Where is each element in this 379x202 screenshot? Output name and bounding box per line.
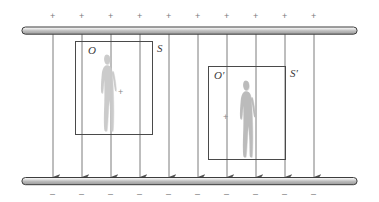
positive-charge-sign: + [253, 12, 258, 21]
observer-label-O-prime: O′ [214, 69, 224, 81]
physics-figure-capacitor-frames: O S + O′ S′ + +–+–+–+–+–+–+–+–+–+– [0, 0, 379, 202]
positive-charge-sign: + [50, 12, 55, 21]
negative-charge-sign: – [166, 190, 171, 199]
observer-silhouette-O-soft [102, 55, 117, 132]
positive-charge-sign: + [224, 12, 229, 21]
negative-charge-sign: – [195, 190, 200, 199]
frame-label-S: S [157, 42, 163, 54]
positive-charge-sign: + [195, 12, 200, 21]
negative-charge-sign: – [253, 190, 258, 199]
observer-label-O: O [88, 44, 96, 56]
negative-charge-sign: – [224, 190, 229, 199]
reference-frames [76, 42, 286, 160]
positive-charge-sign: + [282, 12, 287, 21]
positive-charge-sign: + [311, 12, 316, 21]
positive-charge-sign: + [108, 12, 113, 21]
negative-charge-sign: – [311, 190, 316, 199]
origin-marker-S: + [118, 88, 123, 97]
negative-charge-sign: – [137, 190, 142, 199]
negative-charge-sign: – [108, 190, 113, 199]
negative-charge-sign: – [50, 190, 55, 199]
negative-charge-sign: – [282, 190, 287, 199]
origin-marker-S-prime: + [223, 113, 228, 122]
frame-label-S-prime: S′ [290, 67, 298, 79]
diagram-canvas [0, 0, 379, 202]
negative-charge-sign: – [79, 190, 84, 199]
positive-charge-sign: + [166, 12, 171, 21]
capacitor-plates [22, 27, 357, 185]
negative-plate [22, 178, 357, 185]
positive-plate [22, 27, 357, 34]
positive-charge-sign: + [79, 12, 84, 21]
positive-charge-sign: + [137, 12, 142, 21]
observer-silhouette-O-prime-soft [241, 81, 256, 158]
